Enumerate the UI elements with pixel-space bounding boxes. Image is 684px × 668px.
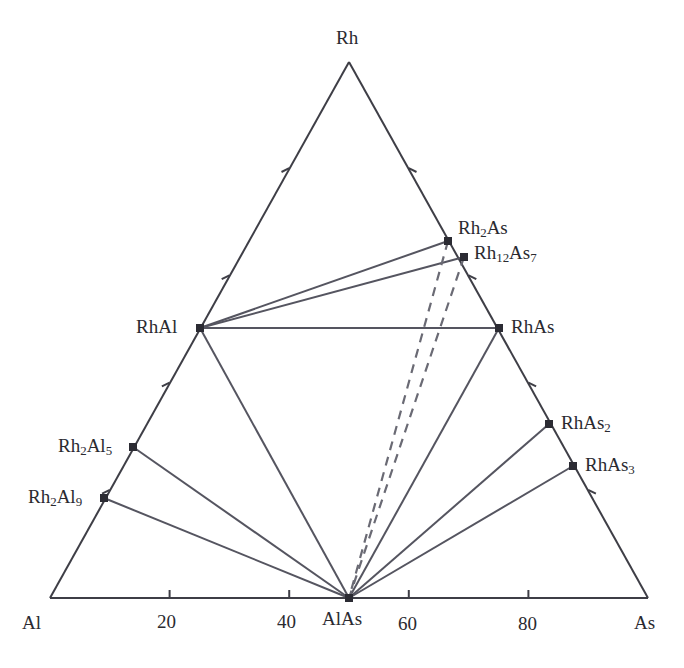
- marker-rh12as7: [460, 253, 468, 261]
- tie-line-rhal-rh12as7: [200, 257, 464, 328]
- compound-label-rh12as7: Rh12As7: [474, 243, 537, 265]
- ternary-phase-diagram-figure: Rh Al As 20 40 60 80 Rh2As Rh12As7 RhAs …: [0, 0, 684, 668]
- corner-label-as: As: [634, 613, 655, 632]
- compound-label-rhas2: RhAs2: [561, 413, 611, 435]
- compound-label-rh2al9: Rh2Al9: [28, 487, 82, 509]
- tie-line-rhas2-alas: [349, 424, 549, 598]
- marker-rhal: [196, 324, 204, 332]
- tie-lines-dashed: [349, 241, 464, 598]
- tie-line-dashed-rh2as-alas: [349, 241, 448, 598]
- compound-label-alas: AlAs: [322, 609, 362, 628]
- axis-label-80: 80: [518, 614, 537, 633]
- axis-label-40: 40: [277, 612, 296, 631]
- axis-label-60: 60: [398, 614, 417, 633]
- compound-label-rh2al5: Rh2Al5: [58, 436, 112, 458]
- marker-rhas: [495, 324, 503, 332]
- compound-label-rhas: RhAs: [511, 317, 554, 336]
- compound-label-rhas3: RhAs3: [585, 455, 635, 477]
- corner-label-al: Al: [22, 613, 41, 632]
- marker-alas: [345, 594, 353, 602]
- tie-line-rhas3-alas: [349, 466, 573, 598]
- tie-line-rhal-alas: [200, 328, 349, 598]
- marker-rh2al5: [129, 443, 137, 451]
- marker-rh2al9: [100, 494, 108, 502]
- marker-rhas2: [545, 420, 553, 428]
- tie-lines-solid: [104, 241, 573, 598]
- tie-line-rhas-alas: [349, 328, 499, 598]
- axis-label-20: 20: [157, 612, 176, 631]
- corner-label-rh: Rh: [336, 28, 358, 47]
- tie-line-rhal-rh2as: [200, 241, 448, 328]
- compound-label-rh2as: Rh2As: [458, 218, 508, 240]
- diagram-canvas: [0, 0, 684, 668]
- marker-rhas3: [569, 462, 577, 470]
- marker-rh2as: [444, 237, 452, 245]
- compound-label-rhal: RhAl: [136, 317, 177, 336]
